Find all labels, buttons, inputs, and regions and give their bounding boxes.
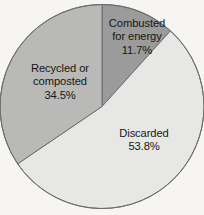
pie-value-combusted: 11.7% — [101, 44, 173, 57]
pie-label-discarded: Discarded 53.8% — [107, 127, 181, 154]
pie-label-combusted-line-2: for energy — [101, 30, 173, 43]
pie-label-recycled-line-2: composted — [20, 75, 100, 88]
pie-label-discarded-line-1: Discarded — [107, 127, 181, 140]
pie-label-combusted-line-1: Combusted — [101, 17, 173, 30]
pie-label-combusted-for-energy: Combusted for energy 11.7% — [101, 17, 173, 57]
pie-chart-figure: Combusted for energy 11.7% Recycled or c… — [0, 0, 204, 215]
pie-label-recycled-or-composted: Recycled or composted 34.5% — [20, 62, 100, 102]
pie-value-discarded: 53.8% — [107, 140, 181, 153]
pie-value-recycled: 34.5% — [20, 89, 100, 102]
pie-label-recycled-line-1: Recycled or — [20, 62, 100, 75]
